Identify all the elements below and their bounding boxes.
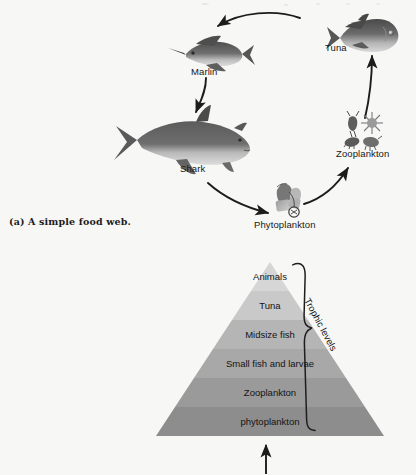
phytoplankton-icon [275,183,301,217]
figure-caption: (a) A simple food web. [9,216,131,227]
pyramid-label-small-fish-and-larvae: Small fish and larvae [226,358,314,369]
pyramid-label-tuna: Tuna [259,300,280,311]
arrow-marlin-to-shark [196,78,206,112]
zooplankton-icon [344,111,383,151]
pyramid-bands [156,262,384,436]
food-web-label-phytoplankton: Phytoplankton [254,219,316,230]
food-web-label-tuna: Tuna [325,42,347,53]
arrow-zooplankton-to-tuna [365,56,372,118]
pyramid-label-zooplankton: Zooplankton [244,387,296,398]
pyramid-label-phytoplankton: phytoplankton [240,416,299,427]
arrow-phytoplankton-to-zooplankton [304,168,348,204]
pyramid-label-midsize-fish: Midsize fish [245,329,295,340]
food-web-label-marlin: Marlin [191,66,217,77]
arrow-tuna-to-marlin [218,13,300,26]
food-web-label-shark: Shark [180,163,205,174]
arrow-shark-to-phytoplankton [208,183,268,213]
pyramid-label-animals: Animals [253,271,287,282]
figure-root: Tuna Marlin Shark Phytoplankton Zooplank… [0,0,416,475]
food-web-label-zooplankton: Zooplankton [336,148,389,159]
